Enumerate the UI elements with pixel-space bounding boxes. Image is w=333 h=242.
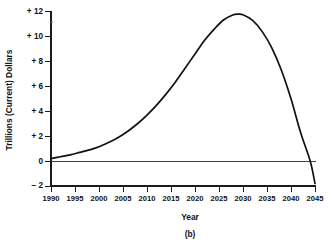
x-tick-labels: 1990 1995 2000 2005 2010 2015 2020 2025 …: [43, 194, 325, 203]
x-tick-label-2000: 2000: [91, 194, 108, 203]
x-tick-label-2040: 2040: [283, 194, 300, 203]
x-tick-label-2020: 2020: [187, 194, 204, 203]
y-tick-label-4: + 4: [31, 107, 43, 116]
y-tick-label-12: + 12: [27, 7, 44, 16]
x-tick-marks: [51, 186, 315, 192]
y-axis-title-text: Trillions (Current) Dollars: [4, 49, 14, 150]
y-tick-label-0: 0: [38, 157, 43, 166]
y-tick-label-8: + 8: [31, 57, 43, 66]
y-tick-label-6: + 6: [31, 82, 43, 91]
x-axis-title-text: Year: [181, 212, 199, 222]
x-tick-label-1990: 1990: [43, 194, 60, 203]
x-tick-label-2005: 2005: [115, 194, 133, 203]
figure-caption-text: (b): [185, 229, 196, 239]
y-tick-label-minus2: − 2: [31, 181, 43, 190]
x-tick-label-2030: 2030: [235, 194, 252, 203]
x-tick-label-2025: 2025: [211, 194, 229, 203]
x-tick-label-2015: 2015: [163, 194, 181, 203]
x-tick-label-1995: 1995: [67, 194, 85, 203]
y-tick-marks: [45, 12, 51, 186]
scan-artifact-speck: [51, 22, 53, 23]
y-tick-labels: + 12 + 10 + 8 + 6 + 4 + 2 0 − 2: [27, 7, 44, 190]
chart-figure: Trillions (Current) Dollars + 12 + 10 + …: [0, 0, 333, 242]
y-tick-label-2: + 2: [31, 132, 43, 141]
series-line-projected-balance: [51, 14, 315, 183]
x-tick-label-2035: 2035: [259, 194, 277, 203]
y-tick-label-10: + 10: [27, 32, 44, 41]
y-axis-title: Trillions (Current) Dollars: [4, 49, 14, 150]
x-tick-label-2010: 2010: [139, 194, 156, 203]
x-tick-label-2045: 2045: [307, 194, 325, 203]
line-chart-plot: Trillions (Current) Dollars + 12 + 10 + …: [0, 0, 333, 242]
